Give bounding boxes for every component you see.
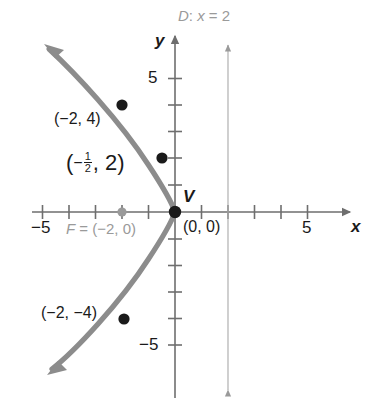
fraction-one-half: 12 — [84, 151, 92, 175]
parabola-graph-figure: D: x = 2 y x 5 −5 −5 5 (−2, 4) (−12, 2) … — [0, 0, 372, 407]
directrix-label-colon: : — [189, 7, 197, 24]
directrix-label: D: x = 2 — [178, 8, 230, 23]
x-tick-label-neg5: −5 — [31, 219, 50, 236]
x-tick-label-5: 5 — [302, 219, 311, 236]
point-neg2-neg4 — [118, 313, 129, 324]
focus-point — [117, 207, 126, 216]
vertex-label-v: V — [183, 188, 194, 205]
y-axis-label: y — [155, 32, 164, 49]
focus-label-f: F — [66, 220, 75, 237]
y-tick-label-5: 5 — [148, 69, 157, 86]
directrix-label-d: D — [178, 7, 189, 24]
point-label-neg2-4: (−2, 4) — [54, 111, 101, 127]
x-axis-label: x — [351, 218, 360, 235]
focus-label-rest: = (−2, 0) — [75, 220, 136, 237]
focus-label: F = (−2, 0) — [66, 221, 136, 236]
point-label-neg2-neg4: (−2, −4) — [41, 305, 97, 321]
y-tick-label-neg5: −5 — [139, 336, 158, 353]
point-label-rest: , 2) — [93, 150, 125, 175]
point-vertex-origin — [169, 206, 181, 218]
fraction-numerator: 1 — [84, 151, 92, 163]
point-neg2-4 — [116, 99, 127, 110]
x-axis — [32, 205, 350, 219]
point-neghalf-2 — [156, 152, 167, 163]
point-label-open-paren: ( — [66, 150, 73, 175]
fraction-denominator: 2 — [84, 162, 92, 175]
point-label-neghalf-2: (−12, 2) — [66, 150, 125, 176]
parabola-curve — [44, 44, 175, 375]
point-label-minus: − — [73, 154, 82, 171]
directrix-label-eq: = 2 — [205, 7, 230, 24]
vertex-coords-label: (0, 0) — [183, 219, 220, 235]
directrix-label-x: x — [197, 7, 205, 24]
